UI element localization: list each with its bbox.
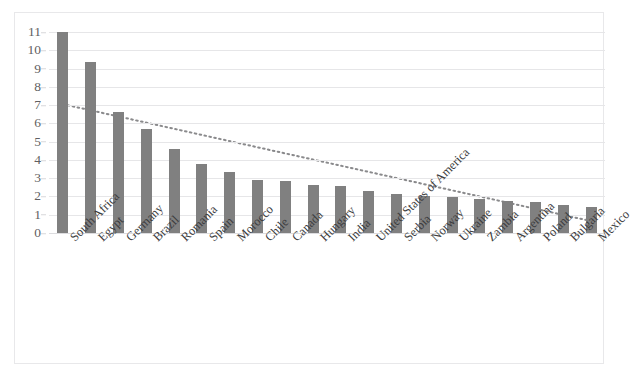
y-axis-tick-mark — [41, 105, 46, 106]
plot-area — [49, 32, 605, 233]
y-axis-tick-mark — [41, 233, 46, 234]
gridline — [49, 196, 605, 197]
y-axis-tick-label: 7 — [34, 98, 41, 112]
y-axis-tick-mark — [41, 50, 46, 51]
gridline — [49, 178, 605, 179]
y-axis-tick-label: 3 — [34, 171, 41, 185]
y-axis-tick-label: 1 — [34, 208, 41, 222]
y-axis-tick-mark — [41, 178, 46, 179]
gridline — [49, 32, 605, 33]
gridline — [49, 142, 605, 143]
gridline — [49, 215, 605, 216]
gridline — [49, 69, 605, 70]
gridline — [49, 105, 605, 106]
y-axis-tick-label: 8 — [34, 80, 41, 94]
y-axis-tick-mark — [41, 123, 46, 124]
y-axis-tick-mark — [41, 142, 46, 143]
y-axis-tick-label: 9 — [34, 62, 41, 76]
y-axis-tick-mark — [41, 196, 46, 197]
y-axis-tick-mark — [41, 215, 46, 216]
y-axis-tick-mark — [41, 87, 46, 88]
y-axis-tick-label: 0 — [34, 226, 41, 240]
trendline — [49, 32, 605, 233]
y-axis-tick-mark — [41, 69, 46, 70]
y-axis-tick-label: 2 — [34, 190, 41, 204]
gridline — [49, 50, 605, 51]
y-axis-tick-label: 4 — [34, 153, 41, 167]
gridline — [49, 160, 605, 161]
gridline — [49, 123, 605, 124]
chart-frame: 01234567891011 South AfricaEgyptGermanyB… — [14, 12, 604, 364]
gridline — [49, 87, 605, 88]
y-axis-tick-label: 10 — [28, 44, 42, 58]
y-axis: 01234567891011 — [15, 32, 45, 233]
y-axis-tick-label: 11 — [28, 25, 41, 39]
y-axis-tick-mark — [41, 32, 46, 33]
y-axis-tick-label: 5 — [34, 135, 41, 149]
y-axis-tick-mark — [41, 160, 46, 161]
y-axis-tick-label: 6 — [34, 117, 41, 131]
x-axis: South AfricaEgyptGermanyBrazilRomaniaSpa… — [49, 235, 605, 355]
bar[interactable] — [57, 32, 68, 233]
